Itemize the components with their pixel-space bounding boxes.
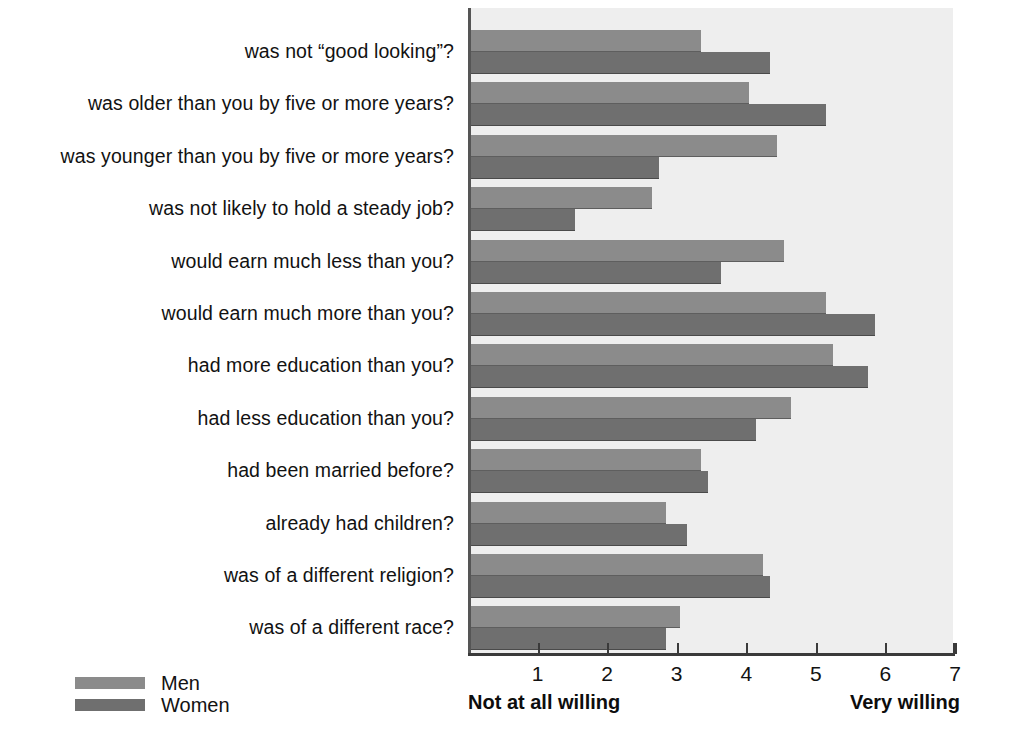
x-axis-tick-label: 6 <box>870 662 900 686</box>
category-label: was not likely to hold a steady job? <box>0 197 454 219</box>
x-axis-tick <box>885 643 887 654</box>
x-axis-tick-label: 3 <box>662 662 692 686</box>
legend-swatch-women <box>75 699 145 711</box>
x-axis-tick <box>816 643 818 654</box>
bar-men <box>471 135 777 157</box>
bar-women <box>471 628 666 650</box>
bar-women <box>471 262 721 284</box>
x-axis-tick <box>746 643 748 654</box>
axis-anchor-high: Very willing <box>850 691 960 714</box>
bar-women <box>471 471 708 493</box>
category-label: had less education than you? <box>0 407 454 429</box>
legend-item: Men <box>75 672 375 694</box>
bar-men <box>471 554 763 576</box>
bar-men <box>471 187 652 209</box>
x-axis-line <box>468 653 955 656</box>
bar-men <box>471 30 701 52</box>
legend-label: Men <box>161 673 200 693</box>
bar-women <box>471 576 770 598</box>
bar-women <box>471 157 659 179</box>
legend-item: Women <box>75 694 375 716</box>
bar-men <box>471 344 833 366</box>
bar-women <box>471 366 868 388</box>
x-axis-tick-label: 4 <box>731 662 761 686</box>
category-label: already had children? <box>0 512 454 534</box>
category-label: was of a different race? <box>0 616 454 638</box>
category-label: would earn much more than you? <box>0 302 454 324</box>
legend-label: Women <box>161 695 230 715</box>
x-axis-tick <box>955 643 957 654</box>
bar-men <box>471 397 791 419</box>
plot-area <box>468 8 953 653</box>
chart-figure: was not “good looking”?was older than yo… <box>0 0 1019 752</box>
x-axis-tick <box>538 643 540 654</box>
x-axis: Not at all willing Very willing 1234567 <box>468 653 955 654</box>
category-label: was younger than you by five or more yea… <box>0 145 454 167</box>
bar-women <box>471 419 756 441</box>
category-label: was not “good looking”? <box>0 40 454 62</box>
bar-women <box>471 314 875 336</box>
bar-men <box>471 292 826 314</box>
x-axis-tick-label: 2 <box>592 662 622 686</box>
bar-men <box>471 606 680 628</box>
bar-women <box>471 209 575 231</box>
legend-swatch-men <box>75 677 145 689</box>
bar-women <box>471 524 687 546</box>
x-axis-tick <box>607 643 609 654</box>
legend: MenWomen <box>75 672 375 716</box>
category-label: was of a different religion? <box>0 564 454 586</box>
bar-women <box>471 104 826 126</box>
category-label-column: was not “good looking”?was older than yo… <box>0 0 466 660</box>
bar-women <box>471 52 770 74</box>
x-axis-tick-label: 7 <box>940 662 970 686</box>
bar-men <box>471 449 701 471</box>
bar-men <box>471 82 749 104</box>
bar-men <box>471 240 784 262</box>
category-label: was older than you by five or more years… <box>0 92 454 114</box>
category-label: had more education than you? <box>0 354 454 376</box>
x-axis-tick-label: 5 <box>801 662 831 686</box>
bar-men <box>471 502 666 524</box>
category-label: would earn much less than you? <box>0 250 454 272</box>
x-axis-tick <box>677 643 679 654</box>
x-axis-tick-label: 1 <box>523 662 553 686</box>
category-label: had been married before? <box>0 459 454 481</box>
axis-anchor-low: Not at all willing <box>468 691 620 714</box>
